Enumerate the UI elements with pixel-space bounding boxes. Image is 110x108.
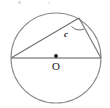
artifact-speck-2 xyxy=(48,2,50,4)
center-label-o: O xyxy=(52,61,60,72)
geometry-figure: c O xyxy=(0,0,110,108)
center-point-dot xyxy=(54,54,58,58)
angle-label-c: c xyxy=(64,30,68,39)
artifact-speck-1 xyxy=(18,1,21,4)
triangle-side-apex-to-right xyxy=(79,18,101,58)
triangle-side-left-to-apex xyxy=(11,18,79,58)
figure-canvas xyxy=(0,0,110,108)
angle-arc-c xyxy=(72,27,85,30)
